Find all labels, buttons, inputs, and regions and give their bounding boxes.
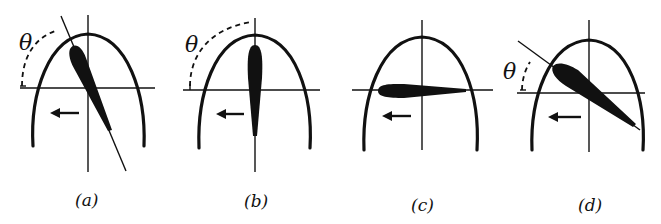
caption-b: (b) xyxy=(244,191,268,211)
theta-label: θ xyxy=(19,30,32,55)
theta-label: θ xyxy=(185,32,198,57)
caption-a: (a) xyxy=(75,190,98,210)
panel-a: θ (a) xyxy=(19,15,155,210)
airfoil-angle-figure: θ (a) θ (b) (c) θ (d) xyxy=(0,0,661,224)
airfoil xyxy=(378,84,466,98)
flow-arrow-head xyxy=(548,112,558,122)
panel-b: θ (b) xyxy=(183,18,320,211)
airfoil xyxy=(248,45,263,136)
flow-arrow-head xyxy=(216,109,226,119)
flow-arrow-head xyxy=(382,111,392,121)
flow-arrow-head xyxy=(50,108,60,118)
caption-d: (d) xyxy=(578,195,602,215)
caption-c: (c) xyxy=(411,195,434,215)
theta-label: θ xyxy=(503,59,516,84)
panel-c: (c) xyxy=(352,20,493,215)
angle-arc-dashed xyxy=(522,62,530,90)
panel-d: θ (d) xyxy=(503,20,645,215)
